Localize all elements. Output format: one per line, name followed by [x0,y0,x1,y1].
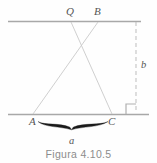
figure-container: Q B A C b a Figura 4.10.5 [0,0,157,163]
figure-drawing [0,0,157,163]
label-vertex-c: C [108,116,115,127]
label-vertex-q: Q [66,6,74,17]
label-vertex-a: A [29,116,36,127]
label-side-b: b [141,60,146,71]
label-vertex-b: B [94,6,101,17]
brace-under-ac [38,122,108,130]
figure-caption: Figura 4.10.5 [0,148,157,160]
segment-b-to-a [33,22,98,114]
label-side-a: a [69,136,74,147]
segment-q-to-c [71,22,112,114]
right-angle-marker-icon [126,104,136,114]
